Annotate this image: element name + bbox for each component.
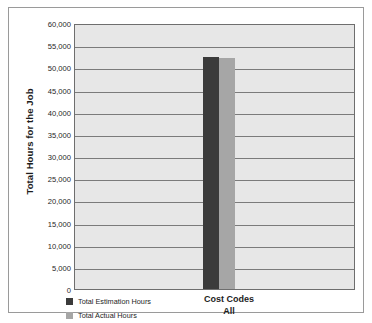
y-axis-tick-label: 0	[27, 286, 71, 295]
bar-chart-figure: Total Hours for the Job 60,00055,00050,0…	[0, 0, 372, 323]
y-axis-tick-label: 10,000	[27, 241, 71, 250]
y-axis-tick-labels: 60,00055,00050,00045,00040,00035,00030,0…	[27, 24, 71, 290]
legend-item-label: Total Actual Hours	[78, 311, 137, 320]
y-axis-tick-label: 30,000	[27, 153, 71, 162]
y-axis-tick-label: 25,000	[27, 175, 71, 184]
y-axis-tick-label: 45,000	[27, 86, 71, 95]
y-axis-tick-label: 40,000	[27, 108, 71, 117]
legend-swatch-icon	[66, 298, 73, 305]
y-axis-tick-label: 50,000	[27, 64, 71, 73]
legend-swatch-icon	[66, 312, 73, 319]
bar-total-actual-hours[interactable]	[219, 58, 235, 289]
legend-item[interactable]: Total Estimation Hours	[66, 296, 196, 307]
y-axis-tick-label: 20,000	[27, 197, 71, 206]
legend-item[interactable]: Total Actual Hours	[66, 310, 196, 321]
chart-legend: Total Estimation Hours Total Actual Hour…	[66, 296, 196, 323]
legend-item-label: Total Estimation Hours	[78, 297, 151, 306]
y-axis-tick-label: 60,000	[27, 20, 71, 29]
plot-area	[74, 24, 355, 290]
bars-layer	[75, 25, 354, 289]
y-axis-tick-label: 5,000	[27, 263, 71, 272]
bar-total-estimation-hours[interactable]	[203, 57, 219, 289]
chart-frame: Total Hours for the Job 60,00055,00050,0…	[8, 7, 364, 313]
y-axis-tick-label: 55,000	[27, 42, 71, 51]
y-axis-tick-label: 35,000	[27, 130, 71, 139]
y-axis-tick-label: 15,000	[27, 219, 71, 228]
